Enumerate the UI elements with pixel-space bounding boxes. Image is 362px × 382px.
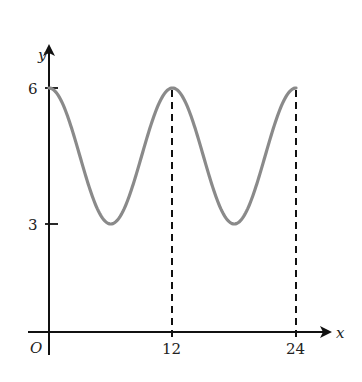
x-tick-label-24: 24 <box>286 340 305 358</box>
chart-figure: y x O 6 3 12 24 <box>0 0 362 382</box>
origin-label: O <box>30 339 42 357</box>
x-tick-label-12: 12 <box>162 340 181 358</box>
y-tick-label-6: 6 <box>28 80 38 98</box>
y-tick-label-3: 3 <box>28 216 38 234</box>
x-axis-label: x <box>336 324 345 342</box>
y-axis-label: y <box>37 46 47 64</box>
